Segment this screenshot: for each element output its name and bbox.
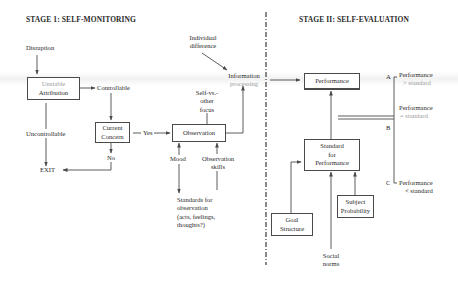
connector-lines xyxy=(0,0,458,285)
subject-probability-box: Subject Probability xyxy=(337,195,374,218)
individual-difference-label: Individual difference xyxy=(183,34,223,51)
observation-skills-label: Observation skills xyxy=(198,155,238,172)
standards-line4: thoughts?) xyxy=(177,221,215,229)
standard-for-performance-box: Standard for Performance xyxy=(304,139,360,171)
disruption-label: Disruption xyxy=(26,44,54,52)
exit-label: EXIT xyxy=(40,166,55,174)
standards-line3: (acts, feelings, xyxy=(177,213,215,221)
observation-skills-line1: Observation xyxy=(198,155,238,163)
standard-box-line1: Standard xyxy=(320,142,343,150)
performance-box-label: Performance xyxy=(315,77,349,85)
mood-label: Mood xyxy=(170,155,186,163)
outcome-c-letter: C xyxy=(386,179,390,187)
information-processing-line2: processing xyxy=(224,80,264,88)
controllable-label: Controllable xyxy=(97,84,130,92)
outcome-c-line2: < standard xyxy=(399,187,433,195)
attribution-box-line1: Unstable xyxy=(42,80,65,88)
outcome-b-line1: Performance xyxy=(399,104,433,112)
social-norms-label: Social norms xyxy=(316,252,346,269)
goal-structure-line1: Goal xyxy=(286,216,299,224)
outcome-a-letter: A xyxy=(386,73,391,81)
performance-box: Performance xyxy=(304,73,360,90)
yes-label: Yes xyxy=(143,129,153,137)
standards-for-observation-label: Standards for observation (acts, feeling… xyxy=(177,196,215,230)
information-processing-label: Information processing xyxy=(224,72,264,89)
standard-box-line3: Performance xyxy=(315,159,349,167)
social-norms-line1: Social xyxy=(316,252,346,260)
outcome-b-label: Performance = standard xyxy=(399,104,433,121)
uncontrollable-label: Uncontrollable xyxy=(26,130,66,138)
social-norms-line2: norms xyxy=(316,260,346,268)
standard-box-line2: for xyxy=(328,151,336,159)
individual-difference-line2: difference xyxy=(183,42,223,50)
focus-line2: other xyxy=(192,97,222,105)
outcome-b-line2: = standard xyxy=(399,112,433,120)
subject-probability-line2: Probability xyxy=(341,207,370,215)
stage1-title: STAGE 1: SELF-MONITORING xyxy=(26,15,136,24)
stage2-title: STAGE II: SELF-EVALUATION xyxy=(299,15,409,24)
standards-line1: Standards for xyxy=(177,196,215,204)
outcome-c-line1: Performance xyxy=(399,179,433,187)
outcome-a-line2: > standard xyxy=(399,79,433,87)
current-concern-box: Current Concern xyxy=(95,122,130,143)
current-concern-line1: Current xyxy=(102,124,122,132)
focus-line1: Self-vs.- xyxy=(192,89,222,97)
outcome-c-label: Performance < standard xyxy=(399,179,433,196)
observation-box-label: Observation xyxy=(183,129,215,137)
attribution-box-line2: Attribution xyxy=(39,89,68,97)
self-vs-other-focus-label: Self-vs.- other focus xyxy=(192,89,222,114)
no-label: No xyxy=(107,154,115,162)
observation-skills-line2: skills xyxy=(198,163,238,171)
individual-difference-line1: Individual xyxy=(183,34,223,42)
current-concern-line2: Concern xyxy=(101,133,123,141)
subject-probability-line1: Subject xyxy=(346,198,366,206)
information-processing-line1: Information xyxy=(224,72,264,80)
goal-structure-box: Goal Structure xyxy=(271,213,313,236)
standards-line2: observation xyxy=(177,204,215,212)
observation-box: Observation xyxy=(172,124,226,142)
goal-structure-line2: Structure xyxy=(280,225,304,233)
outcome-b-letter: B xyxy=(386,124,390,132)
outcome-a-label: Performance > standard xyxy=(399,71,433,88)
outcome-a-line1: Performance xyxy=(399,71,433,79)
focus-line3: focus xyxy=(192,106,222,114)
attribution-box: Unstable Attribution xyxy=(27,77,80,100)
